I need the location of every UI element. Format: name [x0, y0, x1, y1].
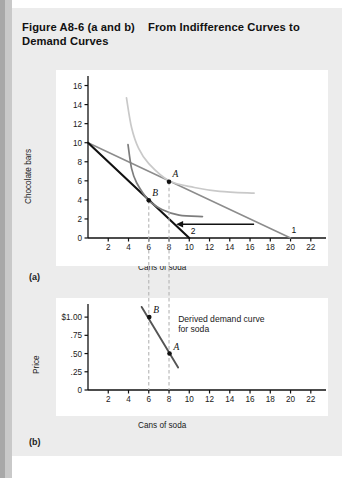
- panel-b-x-tick-label: 4: [126, 395, 131, 404]
- panel-a-y-tick-label: 14: [73, 101, 83, 110]
- panel-b-x-tick-label: 2: [106, 395, 111, 404]
- panel-b-x-tick-label: 10: [185, 395, 195, 404]
- figure-title: Figure A8-6 (a and b)From Indifference C…: [22, 20, 318, 48]
- panel-a-svg: 0246810121416246810121416182022AB12: [56, 70, 328, 266]
- scan-margin-band-dark: [0, 0, 5, 478]
- panel-a-x-tick-label: 22: [306, 243, 316, 252]
- panel-b-svg: 0.25.50.75$1.00246810121416182022BADeriv…: [56, 298, 328, 416]
- panel-a-y-tick-label: 10: [73, 139, 83, 148]
- panel-a-y-tick-label: 4: [77, 196, 82, 205]
- panel-a-y-tick-label: 0: [77, 234, 82, 243]
- panel-a-y-tick-label: 8: [77, 158, 82, 167]
- panel-b-plot: 0.25.50.75$1.00246810121416182022BADeriv…: [56, 298, 328, 416]
- panel-a-x-tick-label: 6: [146, 243, 151, 252]
- panel-a-plot: 0246810121416246810121416182022AB12: [56, 70, 328, 266]
- budget-line-2-label: 2: [191, 226, 196, 236]
- panel-a-x-tick-label: 20: [286, 243, 296, 252]
- figure-container: Figure A8-6 (a and b)From Indifference C…: [12, 8, 342, 456]
- panel-a-x-tick-label: 10: [185, 243, 195, 252]
- panel-b-y-tick-label: $1.00: [62, 313, 83, 322]
- panel-b-point-label-a: A: [173, 342, 180, 352]
- panel-b-x-tick-label: 18: [266, 395, 276, 404]
- panel-b-point-b: [147, 315, 152, 320]
- panel-b-y-tick-label: .25: [71, 368, 83, 377]
- panel-a-point-b: [146, 198, 151, 203]
- panel-b-demand-curve: [142, 307, 178, 367]
- panel-b-y-tick-label: 0: [77, 386, 82, 395]
- panel-b-x-tick-label: 12: [205, 395, 215, 404]
- panel-a-series-budget-line-2: [88, 143, 189, 238]
- figure-page: Figure A8-6 (a and b)From Indifference C…: [0, 0, 348, 478]
- panel-b-y-tick-label: .50: [71, 350, 83, 359]
- panel-a-y-tick-label: 16: [73, 82, 83, 91]
- budget-line-1-label: 1: [292, 225, 297, 235]
- panel-b-x-tick-label: 6: [146, 395, 151, 404]
- panel-b-x-tick-label: 22: [306, 395, 316, 404]
- panel-b-x-tick-label: 16: [245, 395, 255, 404]
- panel-b-x-tick-label: 14: [225, 395, 235, 404]
- panel-a-point-a: [167, 179, 172, 184]
- panel-a-y-tick-label: 2: [77, 215, 82, 224]
- panel-a-series-indifference-curve-high: [126, 98, 254, 193]
- demand-curve-annotation-line1: Derived demand curve: [178, 314, 265, 324]
- demand-curve-annotation-line2: for soda: [178, 324, 209, 334]
- panel-a-point-label-a: A: [172, 169, 179, 179]
- panel-a-x-tick-label: 14: [225, 243, 235, 252]
- panel-b-x-axis-title: Cans of soda: [138, 421, 186, 430]
- panel-a-series-indifference-curve-low: [128, 145, 202, 217]
- panel-a-y-tick-label: 12: [73, 120, 83, 129]
- figure-number: Figure A8-6 (a and b): [22, 21, 135, 33]
- panel-b-point-label-b: B: [153, 305, 159, 315]
- panel-b-y-axis-title: Price: [32, 355, 41, 374]
- panel-a-y-tick-label: 6: [77, 177, 82, 186]
- panel-b-x-tick-label: 8: [167, 395, 172, 404]
- panel-a-x-tick-label: 18: [266, 243, 276, 252]
- panel-b-label: (b): [29, 437, 41, 447]
- panel-a-x-tick-label: 2: [106, 243, 111, 252]
- panel-b-x-tick-label: 20: [286, 395, 296, 404]
- panel-b-point-a: [167, 351, 172, 356]
- panel-a-x-tick-label: 16: [245, 243, 255, 252]
- panel-a-y-axis-title: Chocolate bars: [24, 149, 33, 204]
- panel-a-x-tick-label: 8: [167, 243, 172, 252]
- panel-a-x-tick-label: 4: [126, 243, 131, 252]
- panel-a-label: (a): [29, 272, 40, 282]
- panel-a-x-tick-label: 12: [205, 243, 215, 252]
- panel-b-y-tick-label: .75: [71, 331, 83, 340]
- panel-a-point-label-b: B: [152, 188, 158, 198]
